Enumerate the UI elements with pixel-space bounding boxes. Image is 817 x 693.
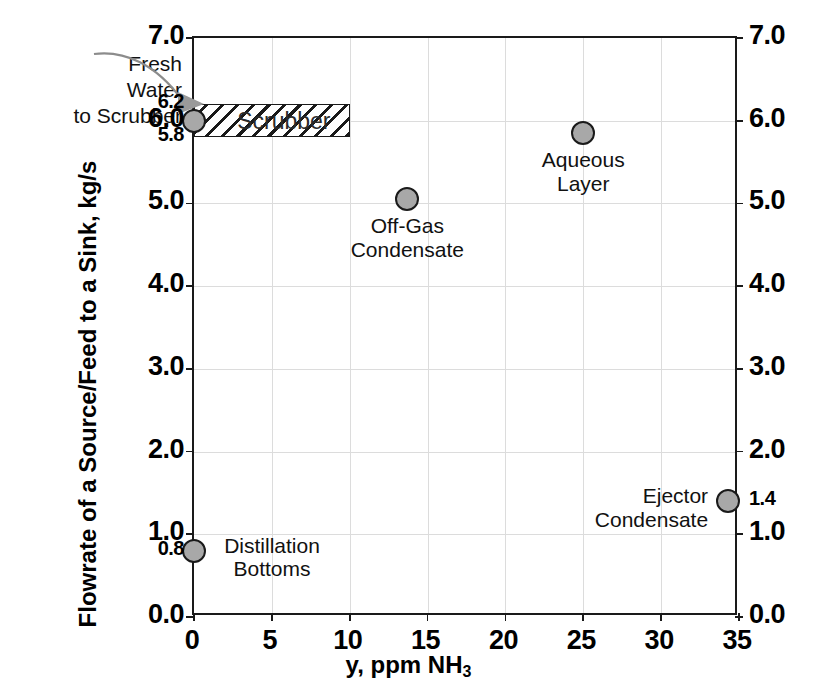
- region-label-scrubber: Scrubber: [237, 107, 330, 134]
- data-point-label-line-1: Aqueous: [542, 148, 625, 172]
- data-point-off-gas-condensate[interactable]: [395, 187, 419, 211]
- y-axis-tick-right: [735, 285, 743, 287]
- x-axis-tick: [193, 613, 195, 621]
- y-axis-tick-left: [186, 451, 194, 453]
- x-axis-title-main: y, ppm NH: [346, 651, 463, 678]
- chart-figure: ScrubberDistillationBottomsOff-GasConden…: [0, 0, 817, 693]
- y-axis-label-right: 7.0: [749, 22, 785, 49]
- y-axis-tick-left: [186, 368, 194, 370]
- y-axis-label-left: 4.0: [118, 270, 184, 297]
- y-axis-tick-right: [735, 451, 743, 453]
- y-axis-tick-right: [735, 533, 743, 535]
- x-axis-tick: [505, 613, 507, 621]
- gridline-horizontal: [194, 369, 735, 370]
- x-axis-tick: [582, 613, 584, 621]
- y-axis-label-left-minor: 0.8: [130, 538, 184, 558]
- y-axis-label-right: 3.0: [749, 353, 785, 380]
- gridline-horizontal: [194, 203, 735, 204]
- x-axis-label: 15: [386, 627, 466, 654]
- y-axis-label-left-minor: 6.2: [130, 91, 184, 111]
- x-axis-label: 35: [697, 627, 777, 654]
- data-point-label-line-1: Ejector: [595, 484, 708, 508]
- y-axis-label-right: 2.0: [749, 436, 785, 463]
- data-point-label-line-2: Condensate: [351, 238, 464, 262]
- x-axis-label: 5: [230, 627, 310, 654]
- y-axis-label-left: 7.0: [118, 22, 184, 49]
- gridline-vertical: [350, 38, 351, 613]
- x-axis-label: 20: [463, 627, 543, 654]
- y-axis-tick-right: [735, 37, 743, 39]
- y-axis-tick-left: [186, 37, 194, 39]
- x-axis-label: 10: [308, 627, 388, 654]
- data-point-label-distillation-bottoms: DistillationBottoms: [224, 534, 320, 581]
- y-axis-tick-left: [186, 533, 194, 535]
- x-axis-tick: [349, 613, 351, 621]
- data-point-distillation-bottoms[interactable]: [182, 539, 206, 563]
- data-point-label-line-1: Distillation: [224, 534, 320, 558]
- gridline-vertical: [505, 38, 506, 613]
- x-axis-label: 25: [541, 627, 621, 654]
- x-axis-tick: [271, 613, 273, 621]
- x-axis-tick: [427, 613, 429, 621]
- data-point-label-off-gas-condensate: Off-GasCondensate: [351, 214, 464, 261]
- data-point-aqueous-layer[interactable]: [571, 121, 595, 145]
- x-axis-label: 30: [619, 627, 699, 654]
- y-axis-tick-right: [735, 368, 743, 370]
- plot-area: ScrubberDistillationBottomsOff-GasConden…: [192, 36, 737, 615]
- y-axis-label-right: 6.0: [749, 105, 785, 132]
- y-axis-label-left: 5.0: [118, 187, 184, 214]
- data-point-label-line-2: Condensate: [595, 508, 708, 532]
- y-axis-title: Flowrate of a Source/Feed to a Sink, kg/…: [74, 154, 102, 634]
- data-point-label-aqueous-layer: AqueousLayer: [542, 148, 625, 195]
- data-point-ejector-condensate[interactable]: [716, 489, 740, 513]
- x-axis-tick: [660, 613, 662, 621]
- y-axis-label-left: 3.0: [118, 353, 184, 380]
- gridline-vertical: [428, 38, 429, 613]
- y-axis-label-right: 5.0: [749, 187, 785, 214]
- y-axis-tick-left: [186, 285, 194, 287]
- data-point-label-ejector-condensate: EjectorCondensate: [595, 484, 708, 531]
- x-axis-title: y, ppm NH3: [0, 651, 817, 681]
- x-axis-tick: [738, 613, 740, 621]
- data-point-label-line-2: Bottoms: [224, 557, 320, 581]
- y-axis-tick-left: [186, 203, 194, 205]
- y-axis-label-left: 2.0: [118, 436, 184, 463]
- gridline-horizontal: [194, 286, 735, 287]
- data-point-label-line-2: Layer: [542, 172, 625, 196]
- y-axis-label-right: 1.0: [749, 518, 785, 545]
- x-axis-title-subscript: 3: [463, 663, 472, 680]
- y-axis-tick-right: [735, 120, 743, 122]
- y-axis-label-right-minor: 1.4: [749, 488, 775, 508]
- y-axis-label-right: 4.0: [749, 270, 785, 297]
- y-axis-label-left: 0.0: [118, 601, 184, 628]
- gridline-horizontal: [194, 452, 735, 453]
- data-point-label-line-1: Off-Gas: [351, 214, 464, 238]
- y-axis-label-left-minor: 5.8: [130, 124, 184, 144]
- y-axis-tick-right: [735, 203, 743, 205]
- y-axis-label-right: 0.0: [749, 601, 785, 628]
- x-axis-label: 0: [152, 627, 232, 654]
